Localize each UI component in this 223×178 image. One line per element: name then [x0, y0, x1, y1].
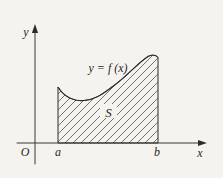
origin-label: O [21, 145, 30, 159]
x-axis-label: x [196, 146, 203, 160]
y-axis-label: y [22, 25, 29, 39]
curve-label: y = f (x) [87, 61, 127, 75]
upper-limit-label: b [154, 145, 160, 159]
area-under-curve-figure: y x O a b y = f (x) S [0, 0, 223, 178]
figure-canvas: y x O a b y = f (x) S [0, 0, 223, 178]
region-label: S [105, 105, 112, 120]
lower-limit-label: a [55, 145, 61, 159]
